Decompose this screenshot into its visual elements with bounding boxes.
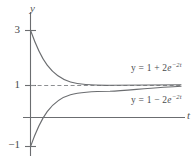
- plot-canvas: [0, 0, 196, 160]
- x-axis-label: t: [187, 110, 190, 121]
- lower-curve-equation-label: y = 1 − 2e−2t: [131, 96, 182, 106]
- figure-container: y t 3 1 −1 y = 1 + 2e−2t y = 1 − 2e−2t: [0, 0, 196, 160]
- lower-curve-equation-lead: y = 1 − 2: [131, 95, 167, 105]
- y-tick-label-negative-1: −1: [0, 139, 20, 150]
- curve-upper: [31, 30, 182, 85]
- y-tick-label-3: 3: [2, 24, 20, 35]
- y-tick-label-1: 1: [2, 79, 20, 90]
- upper-curve-equation-exponent: −2t: [172, 61, 182, 68]
- upper-curve-equation-lead: y = 1 + 2: [131, 63, 167, 73]
- upper-curve-equation-label: y = 1 + 2e−2t: [131, 64, 182, 74]
- y-axis-label: y: [30, 3, 35, 14]
- lower-curve-equation-exponent: −2t: [172, 93, 182, 100]
